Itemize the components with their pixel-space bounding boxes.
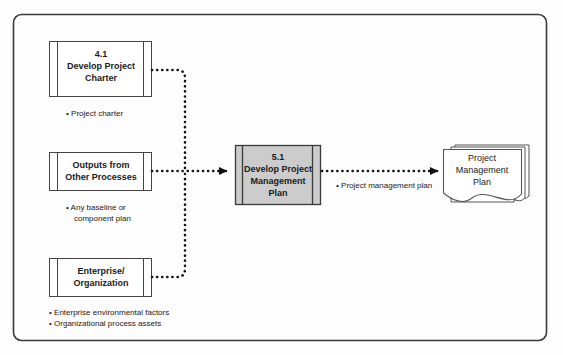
input-1-line1: Develop Project [58,60,144,72]
document-line1: Project [445,152,519,164]
process-number: 5.1 [243,151,313,163]
input-1-output-bullet: • Project charter [66,108,123,119]
input-3-line1: Enterprise/ [58,265,144,277]
flow-label-text: Project management plan [341,181,432,190]
document-line3: Plan [445,176,519,188]
diagram-canvas: 4.1 Develop Project Charter • Project ch… [0,0,563,355]
input-3-line2: Organization [58,277,144,289]
input-2-output-bullet: • Any baseline or [66,202,126,213]
bullet-glyph: • [66,109,69,118]
input-3-output-bullet-1: • Organizational process assets [49,318,161,329]
bullet-glyph: • [336,181,339,190]
input-3-output-1: Organizational process assets [54,319,161,328]
input-2-output-1: component plan [74,213,131,224]
flow-label-project-management-plan: • Project management plan [336,181,432,190]
bullet-glyph: • [49,308,52,317]
input-2-line1: Outputs from [58,159,144,171]
input-3-output-0: Enterprise environmental factors [54,308,169,317]
document-line2: Management [445,164,519,176]
input-1-line2: Charter [58,72,144,84]
input-1-number: 4.1 [58,48,144,60]
input-2-output-0: Any baseline or [71,203,126,212]
bullet-glyph: • [49,319,52,328]
process-line2: Management [243,175,313,187]
process-line3: Plan [243,187,313,199]
process-line1: Develop Project [243,163,313,175]
input-3-output-bullet-0: • Enterprise environmental factors [49,307,169,318]
input-2-line2: Other Processes [58,171,144,183]
bullet-glyph: • [66,203,69,212]
input-1-output-0: Project charter [71,109,123,118]
